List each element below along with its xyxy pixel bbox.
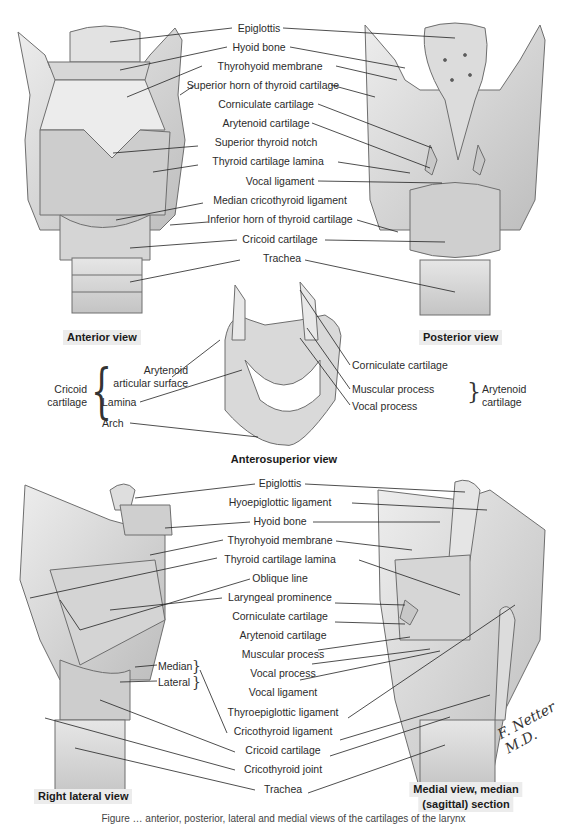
label-thyroepiglottic: Thyroepiglottic ligament <box>228 706 339 718</box>
label-cricothyroid-ligament: Cricothyroid ligament <box>234 725 333 737</box>
group-arytenoid-line2: cartilage <box>482 396 522 408</box>
group-arytenoid-line1: Arytenoid <box>482 383 526 395</box>
anterior-view-illustration <box>18 26 185 313</box>
label-thyroid-lamina-top: Thyroid cartilage lamina <box>212 155 323 167</box>
group-cricoid-line2: cartilage <box>47 396 87 408</box>
label-arytenoid-top: Arytenoid cartilage <box>223 117 310 129</box>
label-thyrohyoid-membrane-top: Thyrohyoid membrane <box>217 60 322 72</box>
label-trachea-bottom: Trachea <box>264 783 302 795</box>
posterior-view-title: Posterior view <box>419 330 502 345</box>
label-laryngeal-prominence: Laryngeal prominence <box>228 591 332 603</box>
label-cricoid-top: Cricoid cartilage <box>242 233 317 245</box>
brace-median: } <box>192 659 201 673</box>
label-epiglottis-top: Epiglottis <box>238 22 281 34</box>
label-trachea-top: Trachea <box>263 252 301 264</box>
label-lateral: Lateral <box>158 676 190 688</box>
label-hyoid-bone-bottom: Hyoid bone <box>253 515 306 527</box>
label-arytenoid-articular-1: Arytenoid <box>144 364 188 376</box>
label-superior-horn: Superior horn of thyroid cartilage <box>187 79 339 91</box>
label-hyoid-bone-top: Hyoid bone <box>232 41 285 53</box>
brace-lateral: } <box>192 675 201 689</box>
label-superior-thyroid-notch: Superior thyroid notch <box>215 136 318 148</box>
label-epiglottis-bottom: Epiglottis <box>259 477 302 489</box>
label-cricoid-bottom: Cricoid cartilage <box>245 744 320 756</box>
anterosuperior-view-title: Anterosuperior view <box>227 452 341 467</box>
label-median-cricothyroid: Median cricothyroid ligament <box>213 194 347 206</box>
figure-caption: Figure … anterior, posterior, lateral an… <box>0 813 567 824</box>
label-median: Median <box>158 660 192 672</box>
medial-view-title-2: (sagittal) section <box>418 797 513 812</box>
medial-view-title-1: Medial view, median <box>409 782 522 797</box>
brace-cricoid: { <box>91 360 112 420</box>
label-vocal-ligament-top: Vocal ligament <box>246 175 314 187</box>
label-vocal-process-mid: Vocal process <box>352 400 417 412</box>
label-cricothyroid-joint: Cricothyroid joint <box>244 763 322 775</box>
group-cricoid-line1: Cricoid <box>54 383 87 395</box>
brace-arytenoid: } <box>467 381 481 403</box>
label-vocal-process-bottom: Vocal process <box>250 667 315 679</box>
label-oblique-line: Oblique line <box>252 572 307 584</box>
label-arytenoid-articular-2: articular surface <box>113 377 188 389</box>
label-corniculate-mid: Corniculate cartilage <box>352 359 448 371</box>
anterosuperior-view-illustration <box>225 282 341 445</box>
label-hyoepiglottic: Hyoepiglottic ligament <box>229 496 332 508</box>
label-vocal-ligament-bottom: Vocal ligament <box>249 686 317 698</box>
label-thyroid-lamina-bottom: Thyroid cartilage lamina <box>224 553 335 565</box>
label-muscular-process-mid: Muscular process <box>352 383 434 395</box>
label-arytenoid-bottom: Arytenoid cartilage <box>240 629 327 641</box>
label-corniculate-top: Corniculate cartilage <box>218 98 314 110</box>
label-muscular-process-bottom: Muscular process <box>242 648 324 660</box>
label-corniculate-bottom: Corniculate cartilage <box>232 610 328 622</box>
right-lateral-view-title: Right lateral view <box>34 789 132 804</box>
anterior-view-title: Anterior view <box>63 330 141 345</box>
label-thyrohyoid-bottom: Thyrohyoid membrane <box>227 534 332 546</box>
posterior-view-illustration <box>365 23 545 315</box>
label-inferior-horn: Inferior horn of thyroid cartilage <box>207 213 352 225</box>
